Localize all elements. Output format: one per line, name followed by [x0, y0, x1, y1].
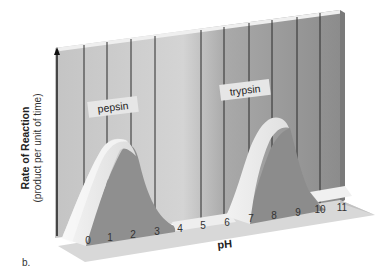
svg-text:1: 1 — [107, 232, 113, 243]
svg-text:3: 3 — [154, 226, 160, 237]
svg-text:2: 2 — [130, 229, 136, 240]
svg-text:8: 8 — [271, 210, 277, 221]
svg-text:5: 5 — [200, 220, 206, 231]
x-axis-label: pH — [217, 237, 233, 250]
y-axis-sublabel: (product per unit of time) — [32, 94, 43, 203]
svg-text:10: 10 — [314, 204, 326, 215]
svg-text:9: 9 — [295, 207, 301, 218]
enzyme-ph-chart: pepsin trypsin 0 1 2 3 4 5 6 7 8 9 10 11… — [0, 0, 376, 277]
y-axis-label: Rate of Reaction — [19, 107, 31, 190]
svg-text:7: 7 — [248, 213, 254, 224]
svg-text:4: 4 — [177, 223, 183, 234]
panel-tag: b. — [22, 257, 30, 268]
svg-text:11: 11 — [337, 202, 348, 213]
svg-text:0: 0 — [85, 235, 91, 246]
svg-text:6: 6 — [224, 217, 230, 228]
